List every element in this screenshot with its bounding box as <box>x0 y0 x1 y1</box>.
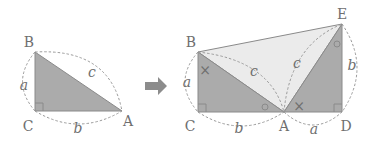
side-label-ba: c <box>250 63 258 79</box>
right-arrow-icon <box>145 77 167 95</box>
pythagorean-diagram: B C A a b c × × B C A D E a b c c b <box>0 0 376 146</box>
vertex-label-e: E <box>337 6 347 22</box>
vertex-label-d: D <box>340 118 351 134</box>
triangle-abc <box>35 52 122 111</box>
side-label-c: c <box>88 64 96 80</box>
vertex-label-c: C <box>23 118 34 134</box>
vertex-label-b: B <box>24 34 34 50</box>
side-label-ca: b <box>235 120 244 136</box>
side-label-ad: a <box>310 121 318 137</box>
vertex-label-a: A <box>278 118 290 134</box>
vertex-label-b: B <box>186 34 196 50</box>
left-triangle: B C A a b c <box>20 34 134 136</box>
angle-mark-cross-a: × <box>293 98 305 114</box>
side-label-bc: a <box>183 74 191 90</box>
angle-mark-cross-b: × <box>199 62 211 78</box>
side-label-ed: b <box>348 57 357 73</box>
right-figure: × × B C A D E a b c c b a <box>183 6 357 137</box>
vertex-label-c: C <box>185 118 196 134</box>
side-label-a: a <box>20 77 28 93</box>
vertex-label-a: A <box>122 113 134 129</box>
side-label-ae: c <box>293 55 301 71</box>
side-label-b: b <box>74 120 83 136</box>
